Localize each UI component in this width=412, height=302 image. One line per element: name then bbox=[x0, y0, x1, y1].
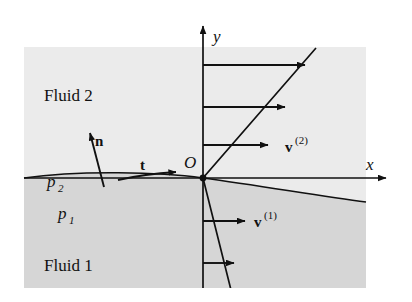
origin-label: O bbox=[184, 153, 196, 172]
velocity-v1-symbol: v bbox=[254, 214, 262, 230]
velocity-v2-superscript: (2) bbox=[295, 134, 308, 147]
fluid1-label: Fluid 1 bbox=[44, 256, 93, 275]
pressure-p2-symbol: p bbox=[46, 172, 56, 191]
velocity-v2-symbol: v bbox=[285, 139, 293, 155]
pressure-p1-subscript: 1 bbox=[69, 214, 75, 226]
fluid2-label: Fluid 2 bbox=[44, 86, 93, 105]
fluid-interface-figure: Fluid 2 Fluid 1 p 2 p 1 n t O y x v (2) … bbox=[0, 0, 412, 302]
pressure-p2-subscript: 2 bbox=[58, 182, 64, 194]
normal-vector-label: n bbox=[95, 133, 104, 149]
x-axis-label: x bbox=[365, 155, 374, 174]
velocity-v1-superscript: (1) bbox=[264, 209, 277, 222]
pressure-p1-symbol: p bbox=[57, 204, 67, 223]
tangent-vector-label: t bbox=[140, 157, 145, 173]
diagram-canvas: Fluid 2 Fluid 1 p 2 p 1 n t O y x v (2) … bbox=[0, 0, 412, 302]
y-axis-label: y bbox=[211, 27, 221, 46]
